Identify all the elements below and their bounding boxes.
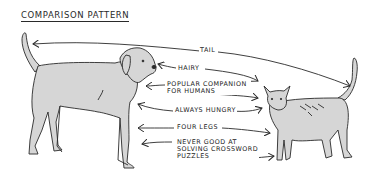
label-always-hungry: ALWAYS HUNGRY (174, 107, 237, 114)
page-title: COMPARISON PATTERN (21, 10, 129, 22)
dog-illustration (22, 33, 156, 168)
label-never-good: NEVER GOOD AT SOLVING CROSSWORD PUZZLES (176, 139, 259, 161)
label-hairy: HAIRY (177, 65, 201, 72)
label-four-legs: FOUR LEGS (176, 124, 219, 131)
cat-illustration (264, 58, 357, 160)
label-popular-companion: POPULAR COMPANION FOR HUMANS (166, 81, 248, 95)
label-tail: TAIL (199, 47, 216, 54)
